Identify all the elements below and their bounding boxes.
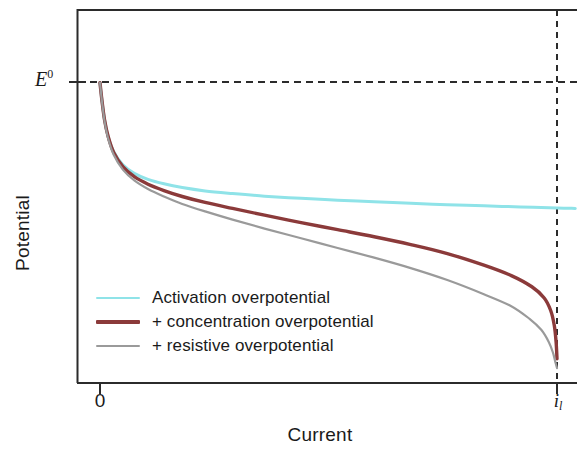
legend-swatch-resistive [96,345,140,347]
x-tick-label-zero: 0 [86,390,114,412]
legend-label-activation: Activation overpotential [152,288,330,308]
legend-item-concentration: + concentration overpotential [96,310,376,334]
legend-item-activation: Activation overpotential [96,286,376,310]
legend-swatch-concentration [96,320,140,324]
e0-superscript: 0 [47,67,53,81]
legend-item-resistive: + resistive overpotential [96,334,376,358]
plot-canvas [0,0,577,453]
legend-label-resistive: + resistive overpotential [152,336,334,356]
e0-reference-label: E0 [35,68,53,91]
x-tick-label-limiting-current: il [544,390,572,412]
y-axis-title: Potential [12,163,34,303]
il-subscript: l [559,399,562,413]
x-axis-title: Current [230,424,410,446]
polarization-curve-figure: Potential Current E0 0 il Activation ove… [0,0,577,453]
curve-activation-overpotential [100,83,575,209]
chart-legend: Activation overpotential + concentration… [96,286,376,358]
legend-swatch-activation [96,297,140,299]
e0-symbol: E [35,68,47,90]
legend-label-concentration: + concentration overpotential [152,312,374,332]
